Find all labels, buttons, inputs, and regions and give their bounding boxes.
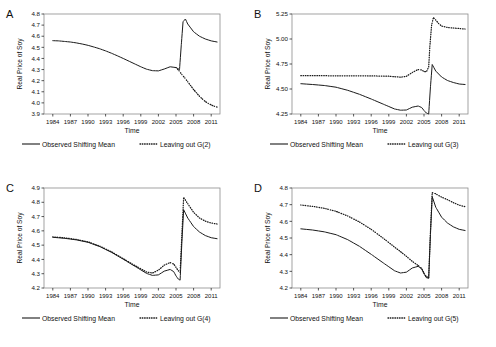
y-tick-label: 4.7 [279,201,288,208]
x-tick-label: 1990 [81,119,95,125]
y-tick-label: 4.2 [279,284,288,291]
x-tick-label: 2005 [417,119,431,125]
y-axis-title: Real Price of Soy [16,38,24,90]
x-tick-label: 1993 [347,293,361,299]
x-tick-label: 2011 [453,293,467,299]
y-tick-label: 4.7 [31,21,40,28]
legend-label-leaving-out: Leaving out G(3) [408,141,459,149]
x-axis-title: Time [373,127,388,134]
x-tick-label: 1987 [312,119,326,125]
y-tick-label: 4.3 [31,66,40,73]
y-tick-label: 4.8 [31,10,40,17]
x-tick-label: 1993 [99,119,113,125]
legend-label-observed: Observed Shifting Mean [42,141,115,149]
y-tick-label: 4.6 [31,32,40,39]
x-tick-label: 1999 [382,119,396,125]
y-tick-label: 4.4 [31,55,40,62]
series-line-leaving-out [301,18,465,78]
x-tick-label: 2008 [435,293,449,299]
x-tick-label: 1993 [99,293,113,299]
legend-label-observed: Observed Shifting Mean [290,141,363,149]
x-tick-label: 1984 [294,293,308,299]
y-tick-label: 4.75 [276,60,289,67]
y-tick-label: 4.5 [279,234,288,241]
x-tick-label: 2008 [435,119,449,125]
plot-area: 4.24.34.44.54.64.74.84.91984198719901993… [0,174,248,347]
series-line-leaving-out [176,68,217,108]
x-axis-title: Time [125,127,140,134]
legend-label-leaving-out: Leaving out G(5) [408,315,459,323]
y-tick-label: 4.8 [31,198,40,205]
y-tick-label: 4.0 [31,99,40,106]
x-tick-label: 1996 [117,119,131,125]
plot-area: 3.94.04.14.24.34.44.54.64.74.81984198719… [0,0,248,173]
x-tick-label: 2011 [205,119,219,125]
x-tick-label: 2008 [187,293,201,299]
y-tick-label: 4.1 [31,88,40,95]
y-tick-label: 4.2 [31,77,40,84]
y-axis-title: Real Price of Soy [264,212,272,264]
y-tick-label: 4.4 [31,256,40,263]
chart-panel-c: C4.24.34.44.54.64.74.84.9198419871990199… [0,174,248,347]
x-tick-label: 2002 [400,293,414,299]
x-tick-label: 2005 [417,293,431,299]
series-line-leaving-out [301,193,465,278]
x-axis-title: Time [125,301,140,308]
legend-label-leaving-out: Leaving out G(2) [160,141,211,149]
y-tick-label: 4.4 [279,251,288,258]
x-tick-label: 1990 [329,293,343,299]
x-tick-label: 1996 [365,119,379,125]
y-tick-label: 4.6 [279,218,288,225]
y-tick-label: 5.25 [276,10,289,17]
x-tick-label: 1984 [46,293,60,299]
x-tick-label: 1993 [347,119,361,125]
y-tick-label: 4.9 [31,184,40,191]
x-tick-label: 1990 [329,119,343,125]
series-line-leaving-out [53,197,217,273]
x-tick-label: 2005 [169,119,183,125]
chart-panel-d: D4.24.34.44.54.64.74.8198419871990199319… [248,174,496,347]
y-tick-label: 4.5 [31,44,40,51]
y-tick-label: 3.9 [31,110,40,117]
x-tick-label: 2011 [205,293,219,299]
legend-label-observed: Observed Shifting Mean [290,315,363,323]
x-tick-label: 1999 [134,119,148,125]
series-line-observed [53,210,217,280]
x-tick-label: 1984 [294,119,308,125]
y-tick-label: 4.3 [31,270,40,277]
x-axis-title: Time [373,301,388,308]
figure-panel-grid: A3.94.04.14.24.34.44.54.64.74.8198419871… [0,0,496,347]
y-tick-label: 4.8 [279,184,288,191]
series-line-observed [53,19,217,71]
chart-panel-b: B4.254.504.755.005.251984198719901993199… [248,0,496,173]
x-tick-label: 1999 [382,293,396,299]
legend-label-observed: Observed Shifting Mean [42,315,115,323]
y-tick-label: 4.50 [276,85,289,92]
plot-area: 4.24.34.44.54.64.74.81984198719901993199… [248,174,496,347]
y-tick-label: 5.00 [276,35,289,42]
x-tick-label: 1996 [365,293,379,299]
plot-frame [44,188,220,288]
plot-area: 4.254.504.755.005.2519841987199019931996… [248,0,496,173]
x-tick-label: 1984 [46,119,60,125]
series-line-observed [301,65,465,115]
legend-label-leaving-out: Leaving out G(4) [160,315,211,323]
plot-frame [292,14,468,114]
x-tick-label: 2002 [400,119,414,125]
x-tick-label: 1987 [64,293,78,299]
x-tick-label: 1999 [134,293,148,299]
y-tick-label: 4.6 [31,227,40,234]
plot-frame [44,14,220,114]
x-tick-label: 2002 [152,293,166,299]
x-tick-label: 2008 [187,119,201,125]
y-tick-label: 4.2 [31,284,40,291]
y-tick-label: 4.3 [279,268,288,275]
x-tick-label: 2002 [152,119,166,125]
y-axis-title: Real Price of Soy [264,38,272,90]
y-axis-title: Real Price of Soy [16,212,24,264]
chart-panel-a: A3.94.04.14.24.34.44.54.64.74.8198419871… [0,0,248,173]
x-tick-label: 2005 [169,293,183,299]
y-tick-label: 4.7 [31,213,40,220]
x-tick-label: 1987 [312,293,326,299]
x-tick-label: 1987 [64,119,78,125]
